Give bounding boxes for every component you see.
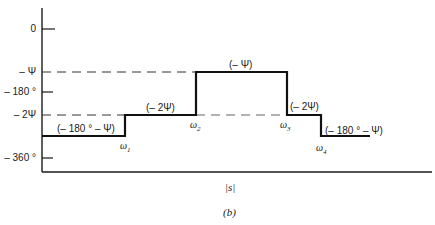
- omega-4-label: ω4: [316, 143, 327, 156]
- y-tick-label-minus-2psi: – 2Ψ: [0, 110, 36, 120]
- phase-plot: [0, 0, 435, 225]
- figure-caption: (b): [223, 207, 236, 218]
- y-tick-label-minus-360: – 360 °: [0, 153, 36, 163]
- y-tick-label-minus-psi: – Ψ: [0, 67, 36, 77]
- segment-label-1: (– 180 ° – Ψ): [57, 124, 115, 134]
- segment-label-2: (– 2Ψ): [146, 103, 175, 113]
- segment-label-3: (– Ψ): [229, 60, 252, 70]
- y-tick-label-0: 0: [0, 24, 36, 34]
- omega-1-label: ω1: [120, 141, 131, 154]
- segment-label-4: (– 2Ψ): [290, 102, 319, 112]
- x-axis-label: |s|: [225, 182, 235, 193]
- y-tick-label-minus-180: – 180 °: [0, 87, 36, 97]
- omega-3-label: ω3: [280, 120, 291, 133]
- omega-2-label: ω2: [190, 120, 201, 133]
- segment-label-5: (– 180 ° – Ψ): [325, 126, 383, 136]
